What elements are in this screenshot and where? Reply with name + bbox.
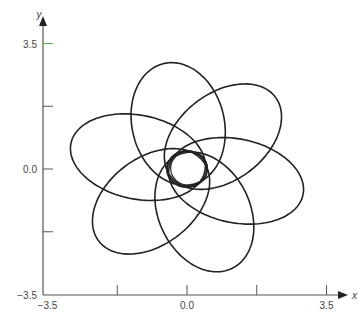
inner-orbit-circle bbox=[171, 151, 208, 185]
y-axis-label: y bbox=[36, 9, 43, 20]
x-tick-label: −3.5 bbox=[38, 300, 58, 311]
y-tick-label: −3.5 bbox=[17, 290, 37, 301]
axes: yx−3.50.03.5−3.50.03.5 bbox=[17, 9, 358, 311]
x-tick-label: 0.0 bbox=[180, 300, 194, 311]
orbit-petal bbox=[93, 149, 210, 255]
orbit-petal bbox=[131, 63, 225, 186]
y-tick-label: 0.0 bbox=[23, 164, 37, 175]
y-tick-label: 3.5 bbox=[23, 39, 37, 50]
orbit-curves bbox=[70, 63, 303, 272]
x-tick-label: 3.5 bbox=[320, 300, 334, 311]
orbit-petal bbox=[164, 84, 281, 189]
x-axis-arrow-icon bbox=[338, 291, 348, 299]
orbit-chart: yx−3.50.03.5−3.50.03.5 bbox=[0, 0, 358, 329]
x-axis-label: x bbox=[351, 290, 358, 301]
